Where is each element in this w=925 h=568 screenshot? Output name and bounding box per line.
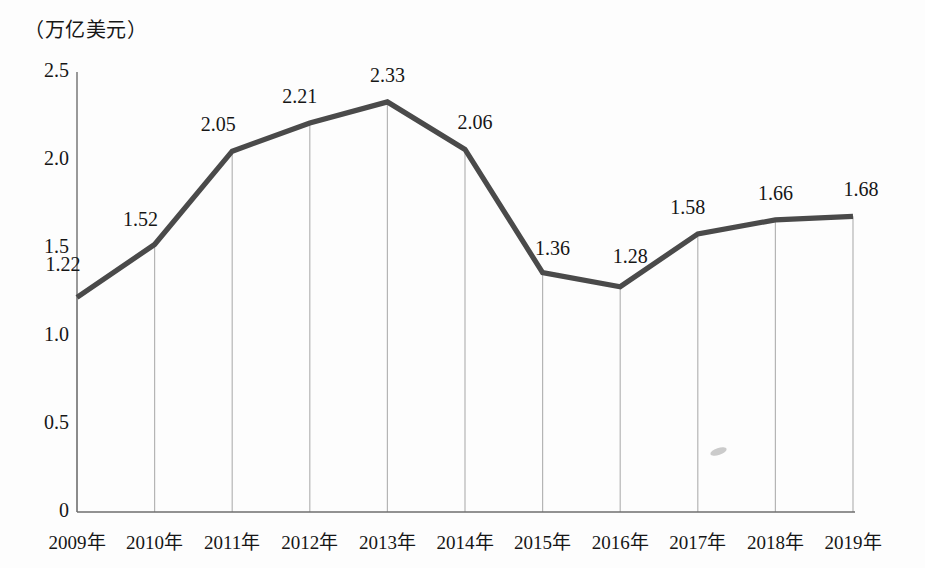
data-point-label: 2.06 (440, 111, 510, 134)
data-point-label: 1.68 (826, 178, 896, 201)
y-axis-tick-label: 2.5 (13, 59, 69, 82)
data-point-label: 2.33 (352, 64, 422, 87)
data-point-label: 1.22 (28, 253, 98, 276)
line-chart-canvas (0, 0, 925, 568)
data-point-label: 1.52 (106, 208, 176, 231)
y-axis-tick-label: 0.5 (13, 411, 69, 434)
x-axis-tick-label: 2019年 (805, 527, 901, 554)
data-point-label: 1.66 (740, 182, 810, 205)
data-point-label: 1.58 (653, 196, 723, 219)
data-point-label: 1.36 (518, 237, 588, 260)
data-point-label: 2.21 (265, 85, 335, 108)
data-point-label: 1.28 (595, 245, 665, 268)
y-axis-tick-label: 1.0 (13, 323, 69, 346)
y-axis-tick-label: 0 (13, 499, 69, 522)
chart-screenshot: （万亿美元） 00.51.01.52.02.52009年2010年2011年20… (0, 0, 925, 568)
data-point-label: 2.05 (183, 113, 253, 136)
y-axis-tick-label: 2.0 (13, 147, 69, 170)
